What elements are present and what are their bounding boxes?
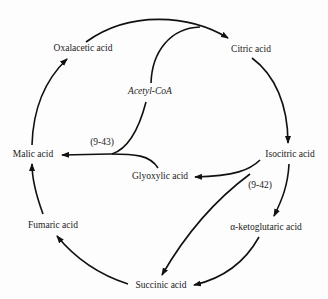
node-oxalacetic-acid: Oxalacetic acid xyxy=(54,44,113,54)
glyoxylate-cycle-diagram: Oxalacetic acid Citric acid Acetyl-CoA (… xyxy=(0,0,328,299)
arrow-succinic-to-fumaric xyxy=(57,236,128,284)
node-succinic-acid: Succinic acid xyxy=(136,281,187,291)
node-citric-acid: Citric acid xyxy=(231,45,271,55)
reaction-label-9-42: (9-42) xyxy=(248,181,272,191)
arrow-glyoxylic-to-malic xyxy=(62,154,158,168)
arrow-acetylcoa-to-malic xyxy=(112,102,146,154)
node-malic-acid: Malic acid xyxy=(13,150,53,160)
arrow-ketoglutaric-to-succinic xyxy=(194,237,259,285)
arrow-isocitric-to-ketoglutaric xyxy=(274,164,289,216)
node-alpha-ketoglutaric-acid: α-ketoglutaric acid xyxy=(230,223,302,233)
node-glyoxylic-acid: Glyoxylic acid xyxy=(132,172,188,182)
node-fumaric-acid: Fumaric acid xyxy=(28,221,78,231)
arrow-oxalacetic-to-citric xyxy=(86,19,228,42)
arrow-acetylcoa-to-citric xyxy=(151,27,200,83)
arrow-fumaric-to-malic xyxy=(32,164,43,214)
arrow-citric-to-isocitric xyxy=(252,58,288,143)
arrow-malic-to-oxalacetic xyxy=(32,59,67,145)
reaction-label-9-43: (9-43) xyxy=(90,138,114,148)
node-acetyl-coa: Acetyl-CoA xyxy=(128,87,172,97)
node-isocitric-acid: Isocitric acid xyxy=(265,150,314,160)
